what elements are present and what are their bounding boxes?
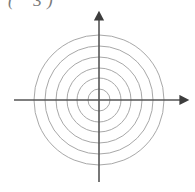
polar-coordinate-grid bbox=[0, 0, 195, 192]
axes-group bbox=[14, 19, 181, 182]
polar-graph-figure: ( 3 ) bbox=[0, 0, 195, 192]
